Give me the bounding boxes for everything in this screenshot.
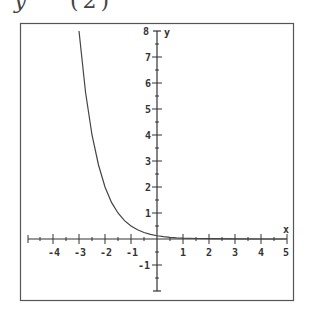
x-tick-label: -2: [100, 247, 112, 258]
y-tick-label: 5: [145, 104, 151, 115]
y-axis-label: y: [164, 27, 170, 38]
y-tick-label: 3: [145, 156, 151, 167]
x-tick-label: 1: [180, 247, 186, 258]
y-tick-label: 8: [143, 26, 149, 37]
x-tick-label: 3: [232, 247, 238, 258]
x-tick-label: -3: [74, 247, 86, 258]
x-axis-label: x: [283, 224, 289, 235]
chart: y x -4 -3 -2 -1 1 2 3 4 5 8 7 6 5 4 3 2 …: [0, 0, 310, 323]
x-tick-label: 2: [206, 247, 212, 258]
function-curve: [79, 31, 287, 239]
y-tick-label: 7: [145, 52, 151, 63]
x-tick-label: -4: [48, 247, 60, 258]
y-tick-label: 2: [145, 182, 151, 193]
x-tick-labels: -4 -3 -2 -1 1 2 3 4 5: [48, 247, 289, 258]
x-tick-label: 4: [258, 247, 264, 258]
y-tick-label: 4: [145, 130, 151, 141]
y-tick-label: -1: [138, 260, 150, 271]
x-tick-label: -1: [126, 247, 138, 258]
y-tick-label: 6: [145, 78, 151, 89]
x-tick-label: 5: [283, 247, 289, 258]
y-tick-label: 1: [145, 208, 151, 219]
